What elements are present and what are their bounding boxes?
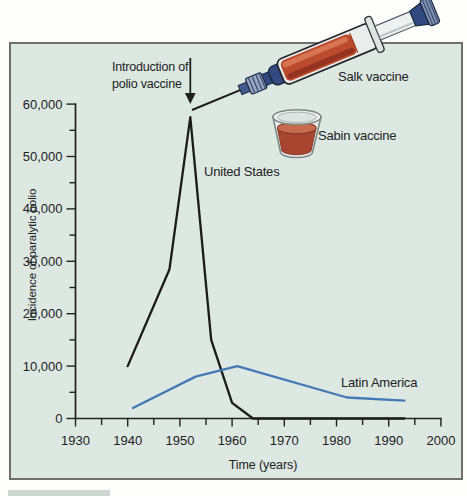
x-tick-label: 1940 xyxy=(113,433,142,448)
annotation-arrow-head xyxy=(185,93,196,104)
x-tick-label: 1990 xyxy=(374,433,403,448)
plot-area: 19301940195019601970198019902000010,0002… xyxy=(23,97,456,448)
intro-annotation-line-1: Introduction of xyxy=(112,60,189,74)
chart-layer: 19301940195019601970198019902000010,0002… xyxy=(0,0,467,496)
y-tick-label: 10,000 xyxy=(23,359,63,374)
x-tick-label: 1930 xyxy=(61,433,90,448)
y-axis-title: Incidence of paralytic polio xyxy=(26,189,38,322)
x-tick-label: 1960 xyxy=(218,433,247,448)
salk-vaccine-label: Salk vaccine xyxy=(338,69,409,84)
figure-canvas: 19301940195019601970198019902000010,0002… xyxy=(0,0,467,496)
intro-annotation-line-2: polio vaccine xyxy=(112,77,182,91)
y-tick-label: 60,000 xyxy=(23,97,63,112)
x-tick-label: 2000 xyxy=(426,433,455,448)
sabin-cup-illustration xyxy=(273,110,321,158)
x-tick-label: 1950 xyxy=(165,433,194,448)
syringe-illustration xyxy=(185,0,443,128)
y-tick-label: 0 xyxy=(55,411,62,426)
united-states-label: United States xyxy=(204,164,280,179)
syringe-needle xyxy=(192,89,242,110)
x-axis-title: Time (years) xyxy=(229,458,297,472)
cup-rim-inner xyxy=(278,112,317,122)
y-tick-label: 50,000 xyxy=(23,149,63,164)
sabin-vaccine-label: Sabin vaccine xyxy=(318,128,396,143)
x-tick-label: 1980 xyxy=(322,433,351,448)
intro-annotation: Introduction of polio vaccine xyxy=(112,58,196,104)
x-tick-label: 1970 xyxy=(270,433,299,448)
latin-america-label: Latin America xyxy=(341,375,418,390)
